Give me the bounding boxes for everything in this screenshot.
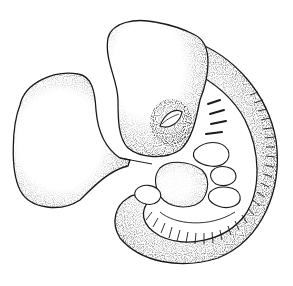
embryo-illustration [0,0,293,286]
inner-contour [160,212,235,223]
eye [150,99,192,145]
pharyngeal-arches [206,100,226,134]
yolk-sac [13,73,130,207]
hindlimb-bud [208,187,240,207]
heart [156,162,208,207]
